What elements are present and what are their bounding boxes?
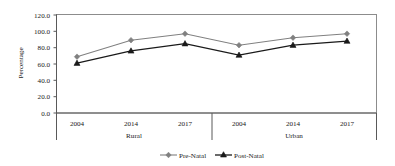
y-tick-label-80: 80.0	[38, 44, 51, 52]
x-label-rural-2017: 2017	[178, 120, 193, 128]
x-group-label-rural: Rural	[126, 132, 142, 140]
y-tick-label-120: 120.0	[34, 12, 50, 20]
chart-figure: 120.0 100.0 80.0 60.0 40.0 20.0 0.0 Perc…	[0, 0, 395, 166]
x-label-rural-2014: 2014	[124, 120, 139, 128]
x-label-rural-2004: 2004	[70, 120, 85, 128]
y-tick-label-0: 0.0	[41, 110, 50, 118]
x-label-urban-2014: 2014	[286, 120, 301, 128]
line-chart: 120.0 100.0 80.0 60.0 40.0 20.0 0.0 Perc…	[0, 0, 395, 166]
diamond-marker-icon	[166, 152, 171, 158]
plot-area-border	[57, 15, 377, 114]
x-label-urban-2017: 2017	[340, 120, 355, 128]
y-axis-title: Percentage	[17, 47, 25, 78]
y-tick-label-60: 60.0	[38, 61, 51, 69]
legend-label-pre-natal: Pre-Natal	[179, 152, 206, 160]
x-label-urban-2004: 2004	[232, 120, 247, 128]
y-tick-label-40: 40.0	[38, 77, 51, 85]
x-group-label-urban: Urban	[285, 132, 303, 140]
chart-legend: Pre-Natal Post-Natal	[160, 152, 264, 160]
y-tick-label-20: 20.0	[38, 93, 51, 101]
legend-label-post-natal: Post-Natal	[234, 152, 264, 160]
y-tick-label-100: 100.0	[34, 28, 50, 36]
